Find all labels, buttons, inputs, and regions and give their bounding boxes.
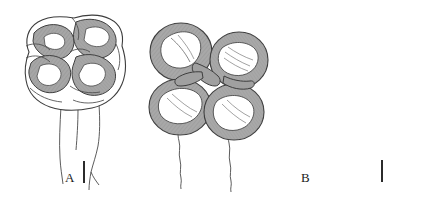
panel-a-scalebar xyxy=(83,161,85,183)
figure-plate: A xyxy=(0,0,447,199)
panel-b-crown xyxy=(149,23,268,140)
panel-b-cusp-posterolingual xyxy=(204,84,264,140)
panel-c: C xyxy=(278,0,447,199)
panel-a-label: A xyxy=(65,171,74,184)
panel-a-drawing xyxy=(0,0,150,199)
panel-b-cusp-posterolabial xyxy=(149,79,211,135)
panel-a: A xyxy=(0,0,150,199)
panel-b-drawing xyxy=(140,0,285,199)
panel-a-crown xyxy=(25,15,125,110)
panel-b: B xyxy=(140,0,285,199)
